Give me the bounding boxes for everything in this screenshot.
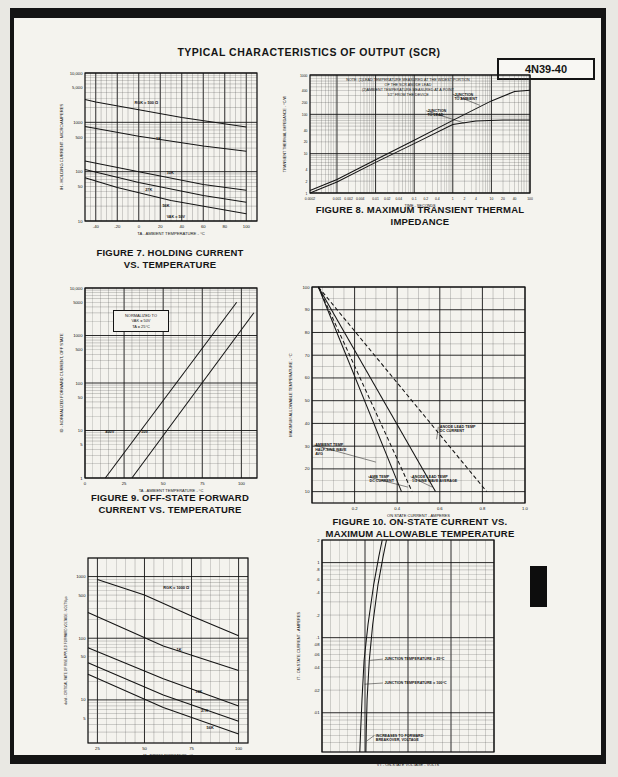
svg-text:80: 80 — [305, 330, 310, 335]
svg-text:1K: 1K — [177, 647, 182, 652]
svg-text:IT - ON-STATE CURRENT - AMPERE: IT - ON-STATE CURRENT - AMPERES — [296, 611, 301, 680]
svg-text:10K: 10K — [195, 689, 202, 694]
svg-text:50: 50 — [305, 398, 310, 403]
svg-text:1000: 1000 — [73, 120, 83, 125]
svg-text:50: 50 — [78, 184, 83, 189]
figure-10-caption: FIGURE 10. ON-STATE CURRENT VS. MAXIMUM … — [300, 516, 540, 541]
svg-text:27K: 27K — [145, 187, 152, 192]
svg-text:INCREASES TO FORWARD: INCREASES TO FORWARD — [376, 734, 424, 738]
svg-text:0.01: 0.01 — [372, 197, 379, 201]
svg-text:0.2: 0.2 — [423, 197, 428, 201]
svg-text:50: 50 — [81, 654, 86, 659]
svg-text:40: 40 — [513, 197, 517, 201]
svg-text:20: 20 — [501, 197, 505, 201]
svg-text:100: 100 — [76, 381, 84, 386]
svg-text:1000: 1000 — [76, 574, 86, 579]
svg-text:0.8: 0.8 — [479, 506, 485, 511]
svg-text:0.004: 0.004 — [356, 197, 365, 201]
svg-text:1: 1 — [306, 192, 308, 196]
svg-text:0.6: 0.6 — [437, 506, 443, 511]
svg-text:75: 75 — [189, 746, 194, 751]
figure-10-chart: 0.20.40.60.81.0102030405060708090100ON S… — [312, 287, 525, 503]
svg-text:VAK = 50V: VAK = 50V — [167, 215, 186, 219]
svg-text:90: 90 — [305, 307, 310, 312]
svg-text:25: 25 — [122, 481, 127, 486]
svg-text:500: 500 — [79, 593, 87, 598]
svg-text:ANODE LEAD TEMP: ANODE LEAD TEMP — [440, 425, 476, 429]
svg-text:50: 50 — [161, 481, 166, 486]
svg-text:1/2 SINE WAVE AVERAGE: 1/2 SINE WAVE AVERAGE — [412, 479, 458, 483]
svg-text:40: 40 — [305, 421, 310, 426]
svg-text:IH - HOLDING CURRENT - MICROAM: IH - HOLDING CURRENT - MICROAMPERES — [59, 103, 64, 190]
svg-text:500: 500 — [76, 347, 84, 352]
svg-text:500: 500 — [76, 135, 84, 140]
svg-text:RGK = 1000 Ω: RGK = 1000 Ω — [163, 585, 189, 590]
svg-text:10: 10 — [304, 152, 308, 156]
svg-text:TA - AMBIENT TEMPERATURE - °C: TA - AMBIENT TEMPERATURE - °C — [137, 231, 205, 236]
svg-text:70: 70 — [305, 353, 310, 358]
svg-text:1000: 1000 — [300, 74, 308, 78]
svg-text:DC CURRENT: DC CURRENT — [440, 429, 465, 433]
svg-text:MAXIMUM ALLOWABLE TEMPERATURE: MAXIMUM ALLOWABLE TEMPERATURE - °C — [288, 353, 293, 436]
svg-text:40: 40 — [179, 224, 184, 229]
svg-text:60: 60 — [305, 375, 310, 380]
svg-text:0.001: 0.001 — [333, 197, 342, 201]
svg-text:100: 100 — [302, 113, 308, 117]
svg-text:100: 100 — [238, 481, 246, 486]
figure-8-caption-line2: IMPEDANCE — [391, 216, 450, 227]
figure-9-caption: FIGURE 9. OFF-STATE FORWARD CURRENT VS. … — [55, 492, 285, 517]
svg-text:BREAKOVER, VOLTAGE: BREAKOVER, VOLTAGE — [376, 738, 419, 742]
note-line-3: (2)AMBIENT TEMPERATURE MEASURED AT A POI… — [362, 88, 454, 92]
svg-text:0.4: 0.4 — [394, 506, 400, 511]
svg-text:-40: -40 — [93, 224, 100, 229]
svg-text:1K: 1K — [156, 136, 161, 141]
svg-text:100: 100 — [527, 197, 533, 201]
svg-text:-20: -20 — [114, 224, 121, 229]
figure-9-chart: 025507510010,00050001000500100501051TA -… — [85, 288, 257, 478]
figure-9-normalized-box: NORMALIZED TO VAK = 50V TA = 25°C — [113, 310, 169, 332]
svg-text:5000: 5000 — [73, 300, 83, 305]
svg-text:200: 200 — [302, 101, 308, 105]
figure-10-caption-line2: MAXIMUM ALLOWABLE TEMPERATURE — [326, 528, 515, 539]
figure-8-caption-line1: FIGURE 8. MAXIMUM TRANSIENT THERMAL — [316, 204, 525, 215]
norm-line-1: NORMALIZED TO — [125, 313, 157, 318]
figure-7-caption-line1: FIGURE 7. HOLDING CURRENT — [97, 247, 244, 258]
svg-text:TA - AMBIENT TEMPERATURE - °C: TA - AMBIENT TEMPERATURE - °C — [143, 754, 194, 758]
svg-text:40: 40 — [304, 129, 308, 133]
datasheet-page: TYPICAL CHARACTERISTICS OF OUTPUT (SCR) … — [0, 0, 618, 777]
svg-text:10: 10 — [490, 197, 494, 201]
svg-text:10: 10 — [81, 697, 86, 702]
svg-text:100: 100 — [235, 746, 243, 751]
figure-10-caption-line1: FIGURE 10. ON-STATE CURRENT VS. — [333, 516, 508, 527]
svg-text:.06: .06 — [314, 652, 320, 657]
page-title: TYPICAL CHARACTERISTICS OF OUTPUT (SCR) — [0, 46, 618, 58]
note-line-1: NOTE: (1)LEAD TEMPERATURE MEASURED AT TH… — [346, 78, 469, 82]
norm-line-2: VAK = 50V — [132, 318, 151, 323]
figure-8-notes: NOTE: (1)LEAD TEMPERATURE MEASURED AT TH… — [318, 78, 498, 98]
svg-text:JUNCTION TEMPERATURE = 25°C: JUNCTION TEMPERATURE = 25°C — [384, 657, 444, 661]
norm-line-3: TA = 25°C — [132, 324, 150, 329]
svg-text:0.04: 0.04 — [395, 197, 402, 201]
svg-text:0.1: 0.1 — [412, 197, 417, 201]
svg-text:10,000: 10,000 — [70, 286, 83, 291]
svg-text:.04: .04 — [314, 665, 320, 670]
svg-text:50: 50 — [142, 746, 147, 751]
svg-text:ANODE LEAD TEMP: ANODE LEAD TEMP — [412, 475, 448, 479]
svg-text:20: 20 — [158, 224, 163, 229]
svg-text:4: 4 — [475, 197, 477, 201]
svg-text:3.0: 3.0 — [448, 755, 454, 760]
note-line-2: OF THE SCR ANODE LEAD — [385, 83, 432, 87]
svg-text:100: 100 — [243, 224, 251, 229]
svg-text:60: 60 — [201, 224, 206, 229]
svg-text:0.4: 0.4 — [435, 197, 440, 201]
svg-text:27K: 27K — [201, 708, 208, 713]
svg-text:25: 25 — [95, 746, 100, 751]
svg-text:0.02: 0.02 — [384, 197, 391, 201]
svg-text:2: 2 — [463, 197, 465, 201]
svg-text:VT - ON-STATE VOLTAGE - VOLTS: VT - ON-STATE VOLTAGE - VOLTS — [377, 762, 440, 767]
svg-text:50V: 50V — [141, 429, 148, 434]
svg-text:10K: 10K — [167, 170, 174, 175]
svg-text:10,000: 10,000 — [70, 71, 83, 76]
svg-text:400V: 400V — [105, 429, 114, 434]
figure-7-caption: FIGURE 7. HOLDING CURRENT VS. TEMPERATUR… — [60, 247, 280, 272]
